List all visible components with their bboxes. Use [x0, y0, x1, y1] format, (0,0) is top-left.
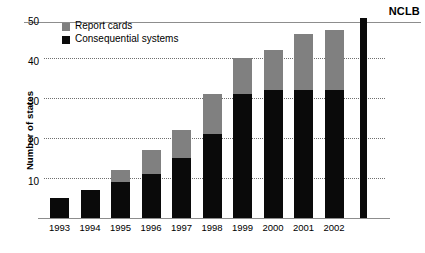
chart-container: NCLB Number of states 1020304050 1993199…	[0, 0, 425, 253]
plot-area: 1020304050 19931994199519961997199819992…	[44, 18, 385, 218]
bar-segment-report-cards-1995[interactable]	[111, 170, 130, 182]
legend-label-consequential-systems: Consequential systems	[75, 33, 178, 46]
y-axis-tick-20: 20	[28, 137, 39, 147]
bar-series-group: 1993199419951996199719981999200020012002	[44, 18, 385, 218]
x-axis-tick-1994: 1994	[76, 222, 105, 233]
bar-1999[interactable]	[233, 58, 252, 218]
legend-label-report-cards: Report cards	[75, 20, 132, 33]
bar-segment-consequential-systems-1994[interactable]	[81, 190, 100, 218]
chart-legend: Report cards Consequential systems	[62, 20, 178, 46]
bar-segment-consequential-systems-1993[interactable]	[50, 198, 69, 218]
bar-1995[interactable]	[111, 170, 130, 218]
bar-1994[interactable]	[81, 190, 100, 218]
bar-segment-consequential-systems-2002[interactable]	[325, 90, 344, 218]
x-axis-tick-1998: 1998	[198, 222, 227, 233]
x-axis-tick-1999: 1999	[228, 222, 257, 233]
bar-segment-consequential-systems-1997[interactable]	[172, 158, 191, 218]
x-axis-tick-1993: 1993	[45, 222, 74, 233]
bar-1998[interactable]	[203, 94, 222, 218]
x-axis-tick-2001: 2001	[289, 222, 318, 233]
y-axis-tick-10: 10	[28, 177, 39, 187]
nclb-marker-bar[interactable]	[360, 18, 367, 218]
bar-segment-report-cards-2001[interactable]	[294, 34, 313, 90]
bar-segment-consequential-systems-1999[interactable]	[233, 94, 252, 218]
x-axis-tick-2000: 2000	[259, 222, 288, 233]
x-axis-tick-1996: 1996	[137, 222, 166, 233]
legend-swatch-icon-consequential-systems	[62, 36, 70, 44]
bar-segment-report-cards-1996[interactable]	[142, 150, 161, 174]
bar-segment-consequential-systems-1995[interactable]	[111, 182, 130, 218]
bar-segment-consequential-systems-1998[interactable]	[203, 134, 222, 218]
legend-item-report-cards: Report cards	[62, 20, 178, 33]
y-axis-tick-50: 50	[28, 17, 39, 27]
y-axis-tick-40: 40	[28, 57, 39, 67]
x-axis-tick-1995: 1995	[106, 222, 135, 233]
bar-segment-report-cards-2000[interactable]	[264, 50, 283, 90]
bar-1997[interactable]	[172, 130, 191, 218]
bar-2001[interactable]	[294, 34, 313, 218]
bar-segment-report-cards-1997[interactable]	[172, 130, 191, 158]
bar-segment-consequential-systems-2000[interactable]	[264, 90, 283, 218]
x-axis-tick-1997: 1997	[167, 222, 196, 233]
x-axis-line	[38, 218, 390, 219]
bar-2002[interactable]	[325, 30, 344, 218]
legend-swatch-icon-report-cards	[62, 23, 70, 31]
y-axis-title: Number of states	[24, 76, 35, 186]
bar-1993[interactable]	[50, 198, 69, 218]
bar-segment-report-cards-2002[interactable]	[325, 30, 344, 90]
bar-1996[interactable]	[142, 150, 161, 218]
nclb-annotation-label: NCLB	[389, 5, 420, 17]
x-axis-tick-2002: 2002	[320, 222, 349, 233]
bar-2000[interactable]	[264, 50, 283, 218]
bar-segment-consequential-systems-2001[interactable]	[294, 90, 313, 218]
y-axis-tick-30: 30	[28, 97, 39, 107]
bar-segment-report-cards-1998[interactable]	[203, 94, 222, 134]
bar-segment-consequential-systems-1996[interactable]	[142, 174, 161, 218]
bar-segment-report-cards-1999[interactable]	[233, 58, 252, 94]
legend-item-consequential-systems: Consequential systems	[62, 33, 178, 46]
